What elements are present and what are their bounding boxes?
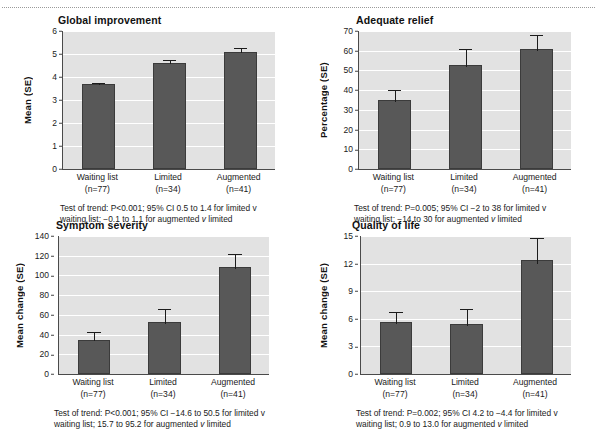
x-axis-category-label: Limited(n=34): [450, 172, 478, 195]
caption-line-2: waiting list; 15.7 to 95.2 for augmented…: [54, 419, 265, 430]
y-axis-ticks: 0123456: [36, 31, 62, 169]
y-axis-tick-label: 3: [52, 96, 57, 105]
figure-page: Global improvement Mean (SE) 0123456 Wai…: [0, 0, 597, 437]
category-sample-size: (n=34): [149, 389, 177, 401]
panel-title: Quality of life: [352, 219, 420, 231]
y-axis-tick-label: 60: [344, 46, 353, 55]
category-name: Augmented: [513, 172, 557, 184]
y-axis-tick-label: 20: [344, 125, 353, 134]
chart-panel-adequate-relief: Adequate relief Percentage (SE) 01020304…: [300, 14, 597, 219]
x-axis-category-label: Waiting list(n=77): [374, 377, 415, 400]
category-sample-size: (n=34): [451, 389, 479, 401]
y-axis-tick-label: 120: [35, 251, 49, 260]
y-axis-tick-label: 3: [348, 342, 353, 351]
gridline: [359, 31, 571, 32]
x-axis-category-label: Waiting list(n=77): [373, 172, 414, 195]
panel-title: Adequate relief: [356, 14, 433, 26]
error-bar-cap: [234, 48, 248, 49]
category-name: Limited: [450, 172, 478, 184]
error-bar: [396, 312, 397, 324]
panel-title: Global improvement: [58, 14, 161, 26]
category-sample-size: (n=41): [513, 389, 557, 401]
error-bar-cap: [388, 90, 402, 91]
category-name: Limited: [149, 377, 177, 389]
x-axis-labels: Waiting list(n=77)Limited(n=34)Augmented…: [62, 172, 274, 202]
y-axis-tick-label: 0: [348, 370, 353, 379]
y-axis-tick-label: 0: [348, 165, 353, 174]
y-axis-tick-label: 5: [52, 50, 57, 59]
x-axis-labels: Waiting list(n=77)Limited(n=34)Augmented…: [358, 172, 570, 202]
y-axis-tick-label: 6: [52, 27, 57, 36]
y-axis-tick-label: 1: [52, 142, 57, 151]
category-name: Augmented: [217, 172, 261, 184]
caption-line-1: Test of trend: P<0.001; 95% CI 0.5 to 1.…: [60, 203, 257, 214]
category-name: Waiting list: [373, 172, 414, 184]
chart-panel-symptom-severity: Symptom severity Mean change (SE) 020406…: [0, 219, 300, 437]
error-bar: [395, 90, 396, 102]
comparison-marker: v: [498, 419, 502, 429]
category-sample-size: (n=41): [217, 184, 261, 196]
error-bar-cap: [389, 312, 403, 313]
y-axis-tick-label: 70: [344, 27, 353, 36]
x-axis-category-label: Augmented(n=41): [513, 172, 557, 195]
plot-area: [358, 31, 571, 170]
y-axis-tick-label: 10: [344, 145, 353, 154]
x-axis-labels: Waiting list(n=77)Limited(n=34)Augmented…: [58, 377, 268, 407]
y-axis-ticks: 03691215: [332, 236, 358, 374]
x-axis-category-label: Limited(n=34): [149, 377, 177, 400]
category-sample-size: (n=77): [72, 389, 113, 401]
error-bar-cap: [530, 35, 544, 36]
bar: [380, 322, 412, 374]
y-axis-tick-label: 9: [348, 287, 353, 296]
bar: [153, 63, 186, 169]
error-bar-cap: [163, 60, 177, 61]
x-axis-category-label: Limited(n=34): [451, 377, 479, 400]
bar: [520, 49, 553, 169]
y-axis-tick-label: 6: [348, 315, 353, 324]
category-sample-size: (n=77): [374, 389, 415, 401]
category-name: Augmented: [211, 377, 255, 389]
chart-panel-quality-of-life: Quality of life Mean change (SE) 0369121…: [300, 219, 597, 437]
category-name: Limited: [154, 172, 182, 184]
y-axis-ticks: 010203040506070: [332, 31, 358, 169]
bar: [224, 52, 257, 169]
bar: [82, 84, 115, 169]
y-axis-tick-label: 0: [44, 370, 49, 379]
category-sample-size: (n=34): [154, 184, 182, 196]
gridline: [59, 236, 269, 237]
category-name: Waiting list: [77, 172, 118, 184]
x-axis-category-label: Waiting list(n=77): [77, 172, 118, 195]
caption-line-1: Test of trend: P<0.001; 95% CI −14.6 to …: [54, 408, 265, 419]
x-axis-category-label: Augmented(n=41): [211, 377, 255, 400]
y-axis-label: Mean change (SE): [14, 242, 25, 368]
x-axis-category-label: Waiting list(n=77): [72, 377, 113, 400]
y-axis-tick-label: 50: [344, 66, 353, 75]
gridline: [59, 256, 269, 257]
y-axis-tick-label: 40: [40, 330, 49, 339]
category-sample-size: (n=77): [373, 184, 414, 196]
plot-area: [58, 236, 269, 375]
bar: [78, 340, 110, 375]
x-axis-category-label: Limited(n=34): [154, 172, 182, 195]
error-bar-cap: [158, 309, 172, 310]
bar: [449, 65, 482, 169]
bar: [378, 100, 411, 169]
panel-title: Symptom severity: [56, 219, 148, 231]
caption-line-1: Test of trend: P=0.002; 95% CI 4.2 to −4…: [356, 408, 558, 419]
y-axis-tick-label: 0: [52, 165, 57, 174]
bar: [148, 322, 180, 374]
error-bar: [537, 238, 538, 264]
panel-caption: Test of trend: P<0.001; 95% CI −14.6 to …: [54, 408, 265, 430]
y-axis-label: Percentage (SE): [318, 37, 329, 163]
y-axis-tick-label: 20: [40, 350, 49, 359]
error-bar: [165, 309, 166, 324]
category-sample-size: (n=77): [77, 184, 118, 196]
x-axis-category-label: Augmented(n=41): [513, 377, 557, 400]
y-axis-tick-label: 12: [344, 259, 353, 268]
y-axis-tick-label: 2: [52, 119, 57, 128]
category-name: Waiting list: [72, 377, 113, 389]
panel-caption: Test of trend: P=0.002; 95% CI 4.2 to −4…: [356, 408, 558, 430]
y-axis-tick-label: 15: [344, 232, 353, 241]
y-axis-tick-label: 140: [35, 232, 49, 241]
x-axis-labels: Waiting list(n=77)Limited(n=34)Augmented…: [360, 377, 570, 407]
